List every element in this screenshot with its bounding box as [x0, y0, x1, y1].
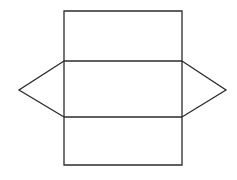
outer-rectangle [64, 11, 182, 165]
left-diamond-point [19, 61, 64, 117]
geometric-figure: Geometric line figure: rectangle with in… [0, 0, 237, 180]
drawing-canvas: Geometric line figure: rectangle with in… [0, 0, 237, 180]
right-diamond-point [182, 61, 226, 117]
